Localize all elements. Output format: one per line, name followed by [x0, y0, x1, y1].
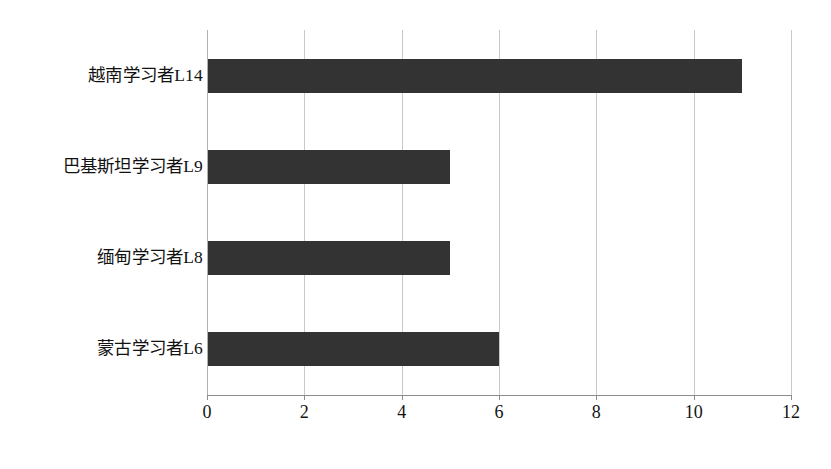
- x-tick-label-5: 10: [664, 403, 724, 421]
- category-label-2: 缅甸学习者L8: [6, 249, 203, 267]
- category-label-0: 越南学习者L14: [6, 67, 203, 85]
- bar-chart: 越南学习者L14 巴基斯坦学习者L9 缅甸学习者L8 蒙古学习者L6 0 2 4…: [0, 0, 831, 469]
- tick-mark-8: [596, 395, 597, 400]
- x-tick-label-2: 4: [372, 403, 432, 421]
- y-axis-line: [207, 30, 208, 395]
- bar-series-0: [207, 59, 742, 93]
- category-label-1: 巴基斯坦学习者L9: [6, 158, 203, 176]
- tick-mark-12: [791, 395, 792, 400]
- gridline-12: [791, 30, 792, 395]
- bar-series-3: [207, 332, 499, 366]
- plot-area: [207, 30, 791, 395]
- tick-mark-2: [304, 395, 305, 400]
- tick-mark-10: [694, 395, 695, 400]
- y-axis-labels: 越南学习者L14 巴基斯坦学习者L9 缅甸学习者L8 蒙古学习者L6: [0, 0, 203, 469]
- x-tick-label-4: 8: [566, 403, 626, 421]
- x-tick-label-0: 0: [177, 403, 237, 421]
- category-label-3: 蒙古学习者L6: [6, 340, 203, 358]
- tick-mark-4: [402, 395, 403, 400]
- x-axis-labels: 0 2 4 6 8 10 12: [0, 403, 831, 433]
- x-tick-label-6: 12: [761, 403, 821, 421]
- tick-mark-0: [207, 395, 208, 400]
- tick-mark-6: [499, 395, 500, 400]
- bar-series-2: [207, 241, 450, 275]
- bar-series-1: [207, 150, 450, 184]
- x-tick-label-3: 6: [469, 403, 529, 421]
- x-tick-label-1: 2: [274, 403, 334, 421]
